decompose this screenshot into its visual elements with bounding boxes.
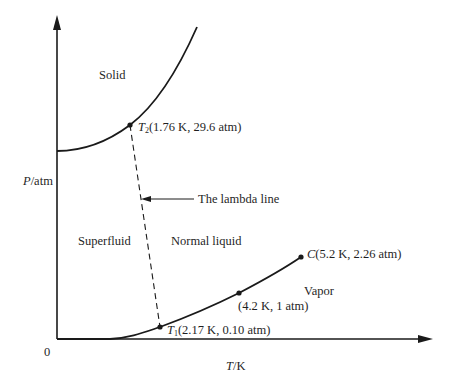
x-axis-arrow-icon bbox=[418, 335, 433, 343]
point-boiling bbox=[236, 290, 241, 295]
point-T1-symbol: T bbox=[167, 323, 174, 337]
region-normal-liquid: Normal liquid bbox=[171, 235, 241, 248]
point-T1-coords: (2.17 K, 0.10 atm) bbox=[178, 323, 270, 337]
region-solid: Solid bbox=[99, 69, 125, 82]
region-superfluid: Superfluid bbox=[78, 235, 131, 248]
point-C bbox=[298, 254, 303, 259]
point-C-coords: (5.2 K, 2.26 atm) bbox=[315, 247, 401, 261]
y-axis-unit: /atm bbox=[31, 174, 53, 188]
point-T2 bbox=[127, 122, 132, 127]
point-boiling-label: (4.2 K, 1 atm) bbox=[238, 300, 308, 313]
lambda-line bbox=[130, 125, 160, 327]
x-axis-unit: /K bbox=[233, 359, 246, 373]
point-T2-symbol: T bbox=[138, 120, 145, 134]
lambda-line-label: The lambda line bbox=[198, 193, 279, 206]
point-T1-label: T1(2.17 K, 0.10 atm) bbox=[167, 324, 270, 338]
x-axis-variable: T bbox=[226, 359, 233, 373]
point-T1 bbox=[157, 324, 162, 329]
y-axis-variable: P bbox=[23, 174, 31, 188]
point-T2-label: T2(1.76 K, 29.6 atm) bbox=[138, 121, 241, 135]
x-axis-label: T/K bbox=[226, 360, 245, 373]
region-vapor: Vapor bbox=[304, 285, 334, 298]
point-C-label: C(5.2 K, 2.26 atm) bbox=[307, 248, 401, 261]
y-axis-arrow-icon bbox=[53, 15, 61, 30]
point-T2-coords: (1.76 K, 29.6 atm) bbox=[149, 120, 241, 134]
origin-label: 0 bbox=[44, 346, 50, 359]
y-axis-label: P/atm bbox=[23, 175, 53, 188]
lambda-pointer-arrow-icon bbox=[141, 196, 151, 202]
